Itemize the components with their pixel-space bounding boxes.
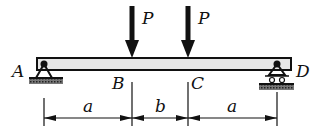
load-arrow-c (181, 6, 195, 58)
load-label-c: P (197, 8, 210, 28)
point-label-d: D (295, 61, 310, 81)
beam (37, 58, 291, 70)
point-label-a: A (10, 61, 24, 81)
point-label-b: B (111, 73, 125, 93)
point-label-c: C (191, 73, 204, 93)
beam-diagram: P P A B C D (0, 0, 315, 137)
dimension-label-bc: b (155, 96, 166, 116)
dimension-label-ab: a (83, 96, 93, 116)
dimension-label-cd: a (227, 96, 237, 116)
load-label-b: P (141, 8, 154, 28)
load-arrow-b (125, 6, 139, 58)
